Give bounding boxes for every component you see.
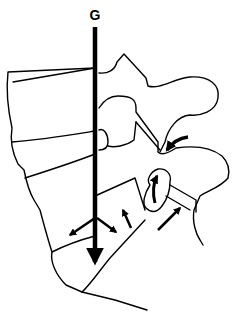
lower-facet-arrow [158, 208, 180, 230]
disc-force-arrows [70, 210, 131, 235]
posterior-elements [99, 54, 229, 245]
spine-diagram: G [0, 0, 242, 313]
disc-compression-arrow [123, 210, 131, 228]
posterior-shear-arrow [97, 218, 116, 232]
anterior-shear-arrow [70, 218, 95, 235]
gravity-label: G [90, 7, 101, 23]
vertebral-bodies [7, 68, 147, 310]
pars-arrow [154, 176, 157, 203]
